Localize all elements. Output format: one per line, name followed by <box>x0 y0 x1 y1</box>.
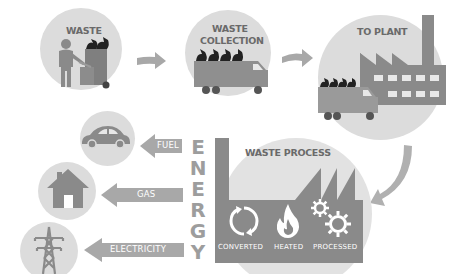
process-label: WASTE PROCESS <box>245 147 331 158</box>
collection-label-line2: COLLECTION <box>200 35 264 46</box>
fuel-label: FUEL <box>157 140 179 150</box>
energy-letter: G <box>188 221 208 241</box>
power-tower-icon <box>34 226 64 274</box>
person-with-bin-icon <box>55 35 115 90</box>
energy-letter: R <box>188 200 208 220</box>
process-step-converted: CONVERTED <box>218 243 263 251</box>
car-icon <box>80 124 132 150</box>
energy-letter: E <box>188 137 208 157</box>
flame-icon <box>275 203 301 239</box>
gears-icon <box>310 198 352 240</box>
energy-letter: Y <box>188 242 208 262</box>
flow-arrow-1 <box>137 52 167 70</box>
flow-arrow-2 <box>282 48 314 68</box>
process-step-heated: HEATED <box>274 243 303 251</box>
garbage-truck-icon <box>194 48 274 94</box>
flow-arrow-3 <box>368 143 418 213</box>
house-icon <box>47 168 89 208</box>
gas-label: GAS <box>137 189 155 199</box>
collection-label-line1: WASTE <box>212 23 248 34</box>
energy-letter: E <box>188 179 208 199</box>
factory-with-truck-icon <box>318 15 448 125</box>
process-step-processed: PROCESSED <box>313 243 357 251</box>
electricity-label: ELECTRICITY <box>110 244 166 254</box>
energy-letter: N <box>188 158 208 178</box>
recycle-icon <box>227 205 261 237</box>
